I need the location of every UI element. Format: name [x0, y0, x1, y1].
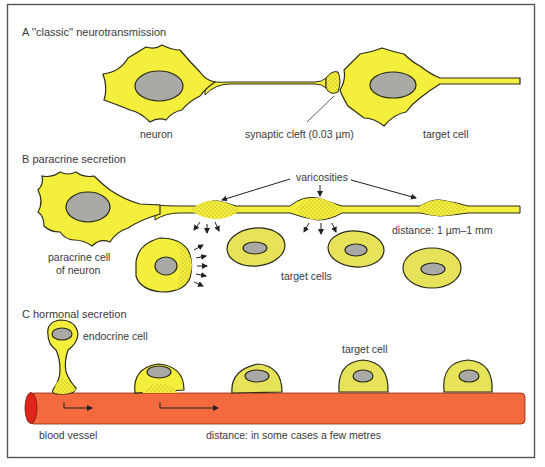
paracrine-target-cell-4-nucleus	[421, 263, 445, 275]
vessel-target-cell-label: target cell	[342, 343, 388, 355]
neuron-label: neuron	[140, 128, 173, 140]
target-cell-nucleus	[370, 72, 416, 98]
panel-b-title: B paracrine secretion	[22, 153, 126, 165]
vessel-cell-3-nucleus	[353, 370, 373, 382]
paracrine-target-cell-2-nucleus	[243, 242, 267, 254]
synaptic-cleft-label: synaptic cleft (0.03 µm)	[245, 128, 354, 140]
blood-vessel-label: blood vessel	[39, 429, 97, 441]
paracrine-target-cell-3-nucleus	[345, 244, 367, 256]
paracrine-cell-label-1: paracrine cell	[48, 251, 110, 263]
vessel-cell-2-nucleus	[245, 370, 269, 382]
panel-a-title: A ''classic'' neurotransmission	[22, 26, 166, 38]
hormonal-distance-label: distance: in some cases a few metres	[206, 429, 381, 441]
paracrine-target-cell-1-nucleus	[155, 257, 177, 275]
blood-vessel-lumen	[25, 393, 37, 424]
target-cells-label: target cells	[281, 270, 332, 282]
target-cell-label: target cell	[423, 128, 469, 140]
neuron-nucleus	[135, 71, 183, 101]
blood-vessel	[30, 393, 525, 424]
synaptic-bouton	[326, 72, 340, 94]
paracrine-cell-label-2: of neuron	[56, 264, 101, 276]
paracrine-neuron-nucleus	[66, 192, 110, 222]
varicosities-label: varicosities	[296, 171, 348, 183]
endocrine-cell-label: endocrine cell	[83, 330, 148, 342]
signalling-diagram: A ''classic'' neurotransmission neuron s…	[0, 0, 545, 467]
vessel-cell-1-nucleus	[147, 366, 171, 378]
paracrine-distance-label: distance: 1 µm–1 mm	[392, 224, 493, 236]
vessel-cell-4-nucleus	[459, 370, 479, 382]
panel-c-title: C hormonal secretion	[22, 308, 127, 320]
endocrine-cell-nucleus	[52, 328, 72, 340]
